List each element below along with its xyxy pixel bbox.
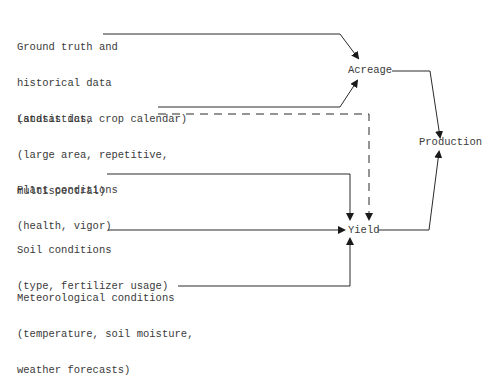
- meteorological-line2: (temperature, soil moisture,: [17, 328, 193, 340]
- edge-yield-production: [378, 152, 439, 230]
- edge-meteorological-yield: [178, 239, 350, 286]
- meteorological-line3: weather forecasts): [17, 364, 193, 376]
- edge-landsat-yield-dashed: [158, 114, 369, 219]
- edge-landsat-acreage: [158, 81, 357, 107]
- edge-plant-yield: [107, 174, 350, 219]
- edge-groundtruth-acreage: [103, 34, 358, 58]
- edge-acreage-production: [392, 71, 440, 137]
